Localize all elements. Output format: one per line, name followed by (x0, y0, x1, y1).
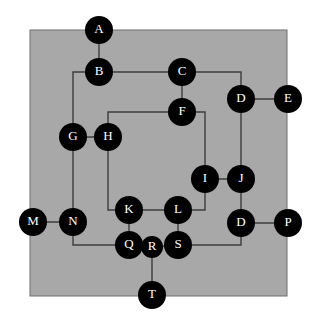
node-label-E: E (284, 90, 292, 105)
node-B[interactable]: B (85, 58, 113, 86)
node-label-N: N (68, 213, 78, 228)
node-label-B: B (95, 63, 104, 78)
node-P[interactable]: P (274, 209, 302, 237)
node-Q[interactable]: Q (115, 231, 143, 259)
node-D1[interactable]: D (227, 85, 255, 113)
node-label-M: M (27, 213, 39, 228)
node-N[interactable]: N (59, 208, 87, 236)
graph-figure: ABCDEFGHIJKLMNDPQRST (0, 0, 317, 324)
node-J[interactable]: J (227, 165, 255, 193)
node-I[interactable]: I (191, 165, 219, 193)
node-M[interactable]: M (19, 208, 47, 236)
node-label-J: J (238, 170, 243, 185)
node-label-G: G (68, 128, 77, 143)
node-label-F: F (178, 103, 185, 118)
node-S[interactable]: S (164, 231, 192, 259)
node-label-A: A (94, 21, 104, 36)
node-label-C: C (178, 63, 187, 78)
node-L[interactable]: L (164, 196, 192, 224)
node-F[interactable]: F (168, 98, 196, 126)
node-label-P: P (284, 214, 291, 229)
node-label-Q: Q (124, 236, 134, 251)
node-T[interactable]: T (138, 281, 166, 309)
node-R[interactable]: R (141, 236, 163, 258)
node-E[interactable]: E (274, 85, 302, 113)
node-A[interactable]: A (85, 16, 113, 44)
node-label-K: K (124, 201, 134, 216)
graph-canvas: ABCDEFGHIJKLMNDPQRST (0, 0, 317, 324)
node-H[interactable]: H (94, 123, 122, 151)
node-C[interactable]: C (168, 58, 196, 86)
node-K[interactable]: K (115, 196, 143, 224)
node-label-R: R (148, 238, 157, 253)
node-label-D1: D (236, 90, 245, 105)
node-label-D2: D (236, 214, 245, 229)
node-label-H: H (103, 128, 112, 143)
node-label-L: L (174, 201, 182, 216)
node-label-I: I (203, 170, 207, 185)
node-G[interactable]: G (59, 123, 87, 151)
node-label-S: S (174, 236, 181, 251)
gray-panel (30, 30, 287, 296)
node-label-T: T (148, 286, 156, 301)
node-D2[interactable]: D (227, 209, 255, 237)
